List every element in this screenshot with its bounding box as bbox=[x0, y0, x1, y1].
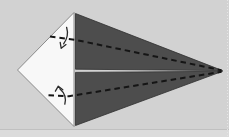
page-bottom-strip bbox=[0, 130, 229, 137]
origami-step-diagram bbox=[0, 0, 229, 137]
scanned-page bbox=[0, 0, 229, 137]
